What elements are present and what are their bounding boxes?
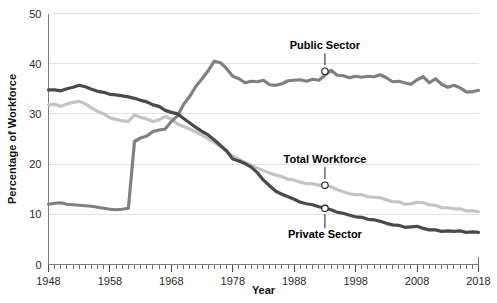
x-tick-label-1988: 1988 <box>282 275 306 287</box>
x-tick-label-1968: 1968 <box>159 275 183 287</box>
x-tick-label-1958: 1958 <box>98 275 122 287</box>
y-axis-title: Percentage of Workforce <box>6 74 18 204</box>
y-tick-label-20: 20 <box>29 158 41 170</box>
y-axis-tick-labels: 01020304050 <box>29 8 41 271</box>
y-tick-label-30: 30 <box>29 108 41 120</box>
x-axis-ticks <box>49 265 479 272</box>
series-line-total-workforce <box>49 101 479 211</box>
line-chart: 01020304050 1948195819681978198819982008… <box>0 0 497 303</box>
x-tick-label-1998: 1998 <box>343 275 367 287</box>
annotation-marker-public-sector <box>322 68 328 74</box>
annotation-marker-total-workforce <box>322 182 328 188</box>
x-tick-label-2008: 2008 <box>405 275 429 287</box>
x-tick-label-1978: 1978 <box>221 275 245 287</box>
y-tick-label-10: 10 <box>29 208 41 220</box>
x-axis-title: Year <box>252 284 276 296</box>
y-tick-label-0: 0 <box>35 259 41 271</box>
series-annotations: Public SectorTotal WorkforcePrivate Sect… <box>284 39 367 240</box>
annotation-label-private-sector: Private Sector <box>288 228 363 240</box>
x-tick-label-2018: 2018 <box>466 275 490 287</box>
annotation-marker-private-sector <box>322 205 328 211</box>
annotation-label-public-sector: Public Sector <box>290 39 361 51</box>
y-tick-label-40: 40 <box>29 58 41 70</box>
series-line-public-sector <box>49 61 479 210</box>
y-tick-label-50: 50 <box>29 8 41 20</box>
data-series <box>49 61 479 232</box>
chart-container: 01020304050 1948195819681978198819982008… <box>0 0 497 303</box>
x-tick-label-1948: 1948 <box>36 275 60 287</box>
annotation-label-total-workforce: Total Workforce <box>284 153 367 165</box>
